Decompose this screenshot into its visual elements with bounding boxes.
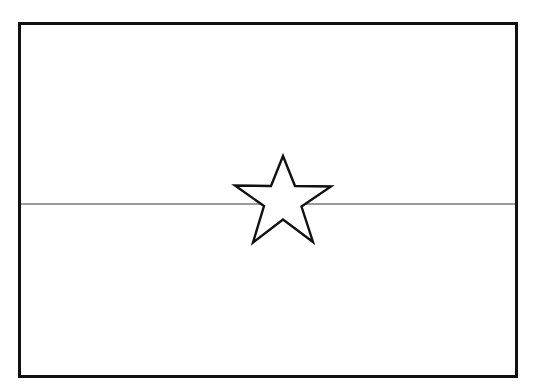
- flag-drawing: [0, 0, 551, 392]
- figure-canvas: Flag outline line drawing: [0, 0, 551, 392]
- upper-band: [20, 24, 517, 205]
